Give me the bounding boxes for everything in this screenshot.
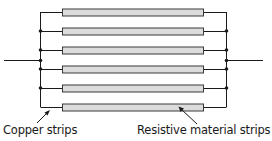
resistive-strip: [63, 47, 204, 54]
strip-row: [41, 85, 227, 92]
resistive-strip: [63, 9, 204, 16]
resistive-strips-label: Resistive material strips: [137, 123, 270, 137]
strip-row: [41, 9, 227, 16]
strip-rows: [41, 9, 227, 111]
strip-row: [41, 104, 227, 111]
parallel-resistor-diagram: [0, 0, 272, 141]
strip-row: [41, 66, 227, 73]
right-bus: [227, 12, 264, 107]
copper-arrow: [37, 110, 50, 123]
strip-row: [41, 28, 227, 35]
resistive-strip: [63, 28, 204, 35]
resistive-strip: [63, 66, 204, 73]
resistive-strip: [63, 85, 204, 92]
junction-dots: [39, 29, 229, 90]
copper-strips-label: Copper strips: [3, 123, 77, 137]
left-bus: [4, 12, 41, 107]
strip-row: [41, 47, 227, 54]
